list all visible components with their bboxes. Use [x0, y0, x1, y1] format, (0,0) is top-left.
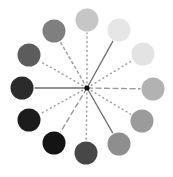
color-swatch-1: [76, 9, 99, 32]
color-swatch-2: [108, 19, 131, 42]
color-swatch-10: [11, 77, 34, 100]
center-point: [84, 85, 89, 90]
color-swatch-11: [18, 44, 41, 67]
spoke-line-5: [87, 88, 131, 115]
spoke-line-6: [87, 88, 113, 133]
color-swatch-7: [75, 142, 98, 165]
spoke-line-9: [40, 88, 87, 114]
spoke-line-11: [40, 61, 87, 88]
color-swatch-6: [108, 133, 131, 156]
color-swatch-8: [43, 132, 66, 155]
color-swatch-3: [132, 43, 155, 66]
spoke-line-3: [87, 61, 132, 89]
color-swatch-12: [43, 20, 66, 43]
spoke-line-4: [87, 88, 141, 89]
color-swatch-5: [131, 110, 154, 133]
spoke-line-7: [86, 88, 87, 141]
spoke-line-2: [87, 41, 113, 88]
color-swatch-4: [142, 78, 165, 101]
wheel-canvas: [0, 0, 173, 177]
color-wheel-diagram: [0, 0, 173, 177]
color-swatch-9: [18, 109, 41, 132]
